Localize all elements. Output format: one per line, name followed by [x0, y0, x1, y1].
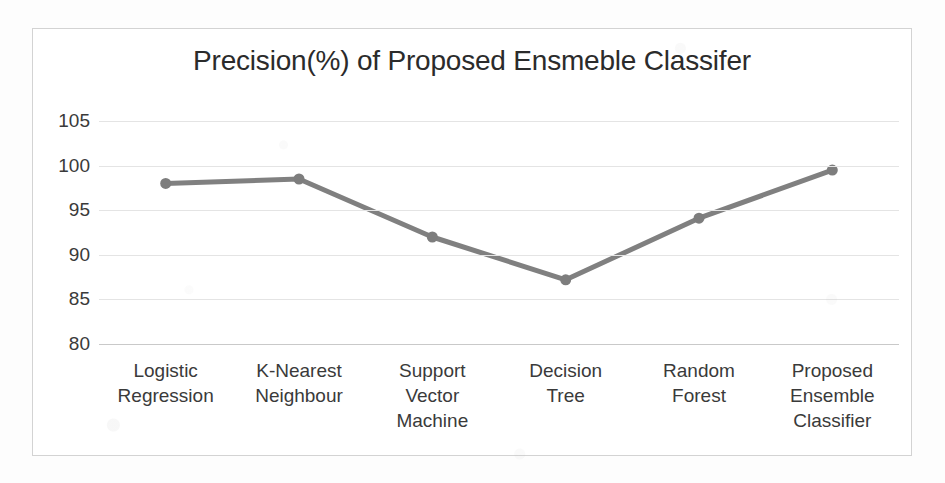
- y-axis-tick-label: 105: [58, 110, 90, 132]
- y-axis-tick-label: 85: [69, 288, 90, 310]
- x-axis-category-label: LogisticRegression: [91, 358, 241, 408]
- data-point-marker[interactable]: [160, 178, 171, 189]
- data-point-marker[interactable]: [294, 174, 305, 185]
- x-axis-category-label-line: Proposed: [757, 358, 907, 383]
- x-axis-category-label: SupportVectorMachine: [357, 358, 507, 433]
- y-axis-tick-label: 80: [69, 333, 90, 355]
- x-axis-category-label-line: Regression: [91, 383, 241, 408]
- x-axis-category-label-line: Machine: [357, 408, 507, 433]
- x-axis-category-label: ProposedEnsembleClassifier: [757, 358, 907, 433]
- y-axis-tick-label: 100: [58, 155, 90, 177]
- x-axis-category-label-line: Forest: [624, 383, 774, 408]
- gridline-80: [99, 344, 899, 345]
- gridline-105: [99, 121, 899, 122]
- chart-title: Precision(%) of Proposed Ensmeble Classi…: [33, 45, 911, 77]
- x-axis-category-label-line: Neighbour: [224, 383, 374, 408]
- x-axis-category-label: RandomForest: [624, 358, 774, 408]
- x-axis-category-label-line: Ensemble: [757, 383, 907, 408]
- y-axis-tick-label: 90: [69, 244, 90, 266]
- x-axis-category-label: K-NearestNeighbour: [224, 358, 374, 408]
- x-axis-category-label-line: Logistic: [91, 358, 241, 383]
- gridline-90: [99, 255, 899, 256]
- x-axis-category-label-line: Random: [624, 358, 774, 383]
- gridline-85: [99, 299, 899, 300]
- gridline-100: [99, 166, 899, 167]
- data-point-marker[interactable]: [560, 274, 571, 285]
- x-axis-category-label-line: Tree: [491, 383, 641, 408]
- gridline-95: [99, 210, 899, 211]
- x-axis-category-label-line: Classifier: [757, 408, 907, 433]
- series-line: [166, 170, 833, 280]
- x-axis-category-label-line: Decision: [491, 358, 641, 383]
- x-axis-category-label-line: Support: [357, 358, 507, 383]
- x-axis-category-label: DecisionTree: [491, 358, 641, 408]
- data-point-marker[interactable]: [427, 232, 438, 243]
- x-axis-category-label-line: K-Nearest: [224, 358, 374, 383]
- data-point-marker[interactable]: [694, 213, 705, 224]
- y-axis-tick-label: 95: [69, 199, 90, 221]
- chart-frame: Precision(%) of Proposed Ensmeble Classi…: [32, 28, 912, 456]
- plot-area: 10510095908580LogisticRegressionK-Neares…: [99, 121, 899, 344]
- line-series-precision: [99, 121, 899, 344]
- x-axis-category-label-line: Vector: [357, 383, 507, 408]
